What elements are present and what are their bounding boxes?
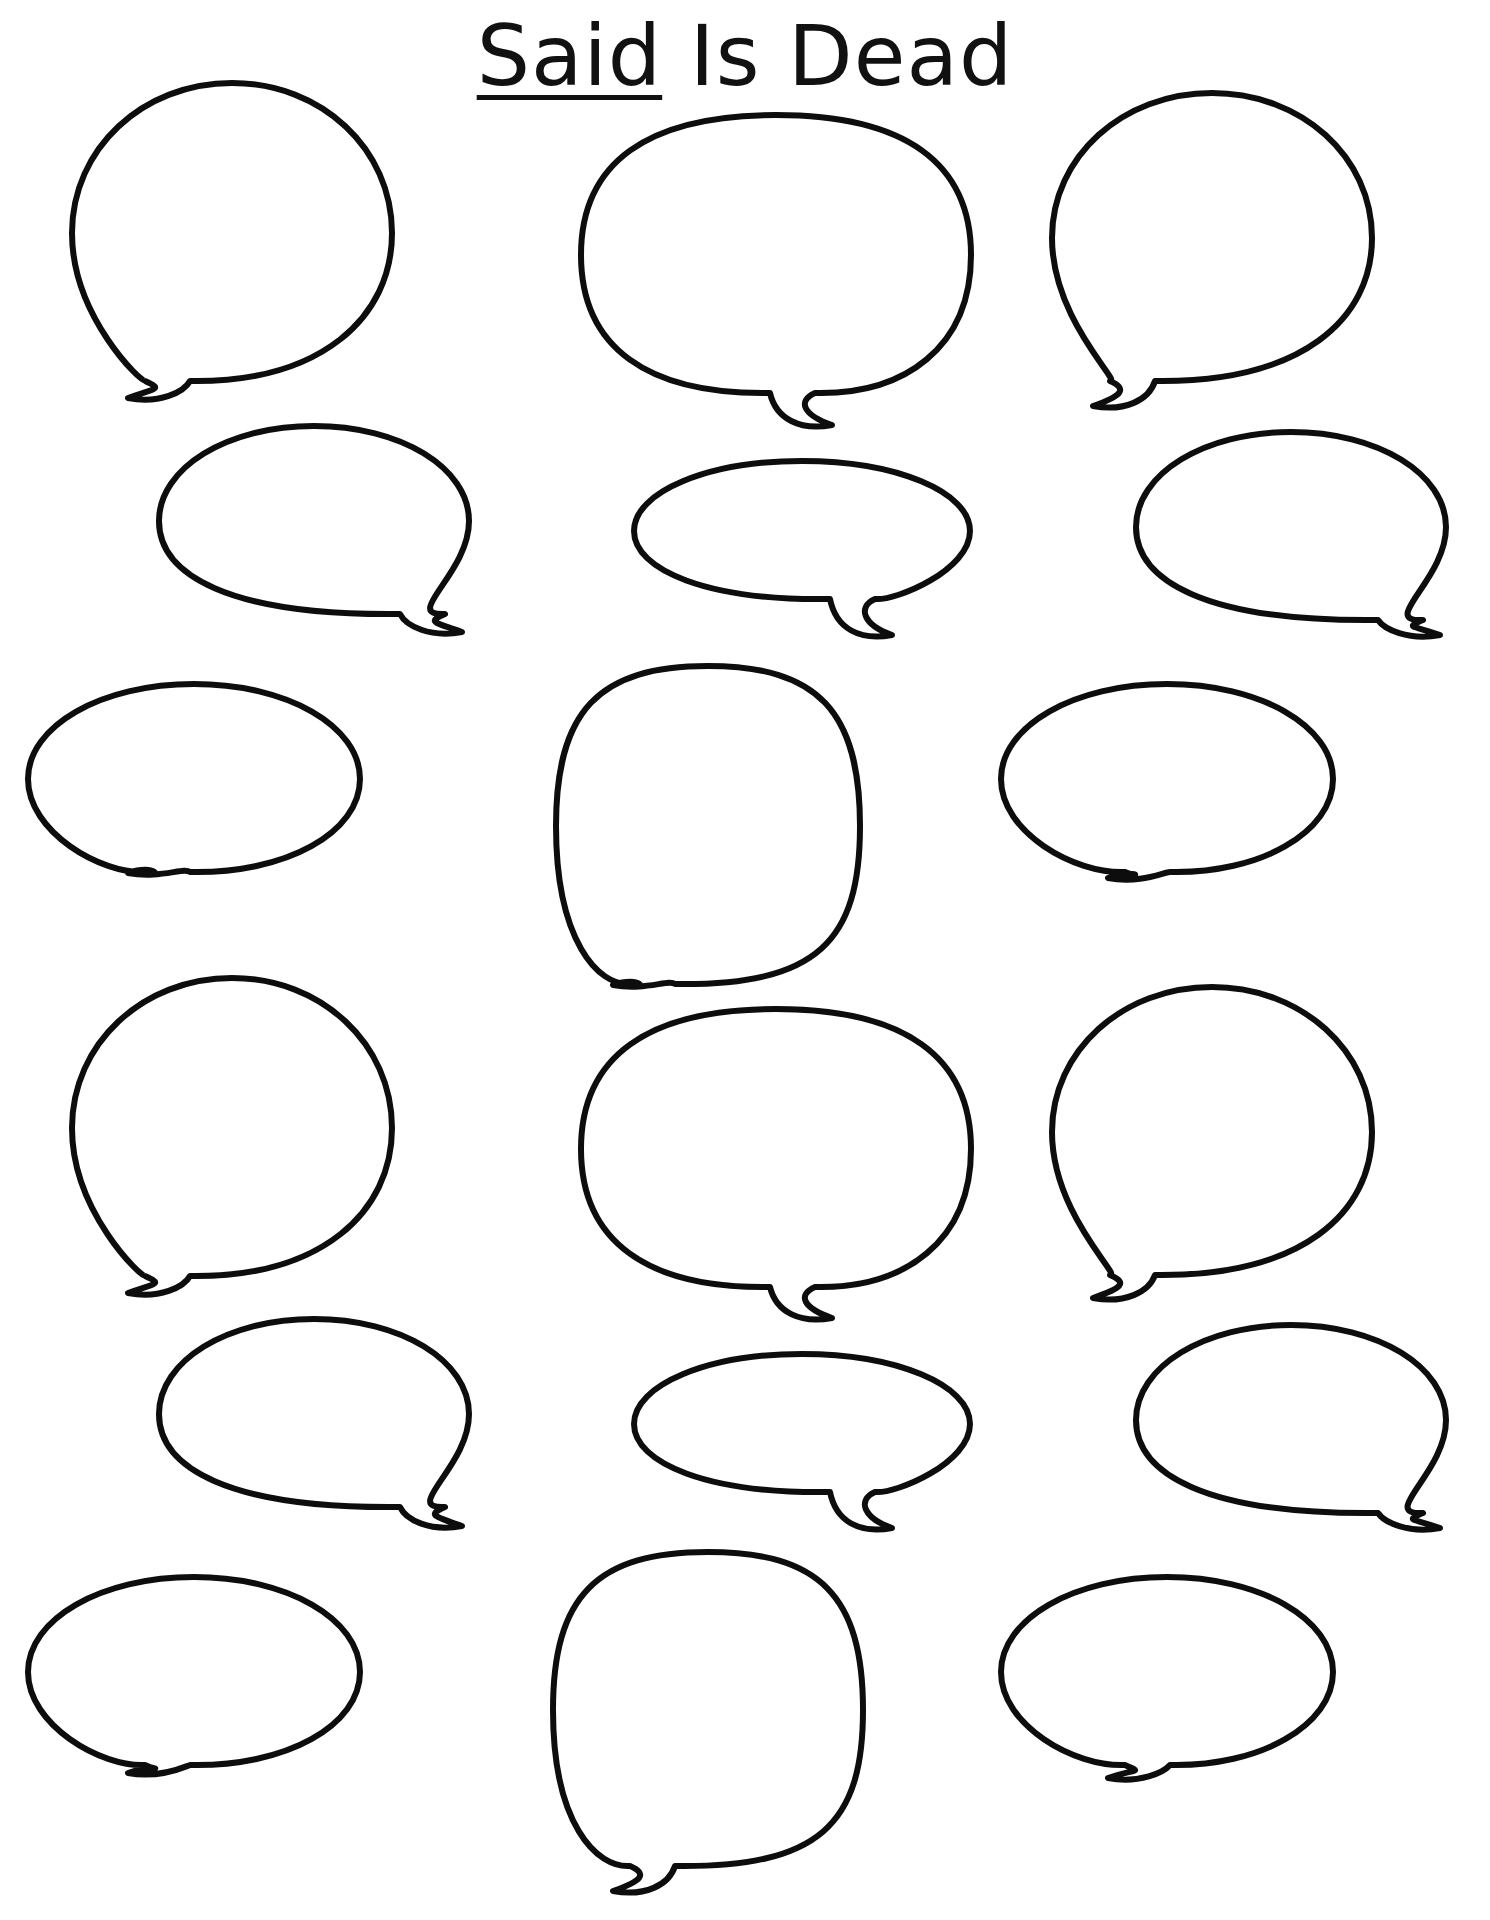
speech-bubble-8 bbox=[556, 666, 860, 987]
speech-bubble-3 bbox=[1052, 93, 1372, 408]
speech-bubble-outline bbox=[159, 426, 469, 634]
speech-bubble-outline bbox=[1136, 1325, 1446, 1530]
speech-bubble-outline bbox=[28, 684, 360, 875]
speech-bubble-9 bbox=[1001, 684, 1333, 880]
speech-bubble-2 bbox=[581, 115, 971, 427]
speech-bubble-outline bbox=[1001, 1577, 1333, 1780]
speech-bubble-outline bbox=[1136, 432, 1446, 637]
speech-bubble-outline bbox=[1001, 684, 1333, 880]
speech-bubble-15 bbox=[1136, 1325, 1446, 1530]
speech-bubble-11 bbox=[581, 1009, 971, 1320]
speech-bubble-outline bbox=[28, 1577, 360, 1775]
speech-bubble-outline bbox=[553, 1552, 863, 1893]
speech-bubble-6 bbox=[1136, 432, 1446, 637]
speech-bubble-14 bbox=[634, 1354, 970, 1530]
speech-bubble-16 bbox=[28, 1577, 360, 1775]
speech-bubble-grid bbox=[0, 0, 1490, 1920]
speech-bubble-18 bbox=[1001, 1577, 1333, 1780]
speech-bubble-outline bbox=[634, 461, 970, 637]
speech-bubble-13 bbox=[159, 1319, 469, 1528]
speech-bubble-outline bbox=[1052, 987, 1372, 1300]
speech-bubble-5 bbox=[634, 461, 970, 637]
speech-bubble-7 bbox=[28, 684, 360, 875]
speech-bubble-outline bbox=[556, 666, 860, 987]
speech-bubble-outline bbox=[581, 1009, 971, 1320]
speech-bubble-4 bbox=[159, 426, 469, 634]
speech-bubble-outline bbox=[634, 1354, 970, 1530]
speech-bubble-outline bbox=[159, 1319, 469, 1528]
speech-bubble-outline bbox=[581, 115, 971, 427]
speech-bubble-10 bbox=[72, 978, 392, 1295]
speech-bubble-12 bbox=[1052, 987, 1372, 1300]
speech-bubble-outline bbox=[72, 83, 392, 400]
speech-bubble-1 bbox=[72, 83, 392, 400]
speech-bubble-17 bbox=[553, 1552, 863, 1893]
speech-bubble-outline bbox=[72, 978, 392, 1295]
speech-bubble-outline bbox=[1052, 93, 1372, 408]
